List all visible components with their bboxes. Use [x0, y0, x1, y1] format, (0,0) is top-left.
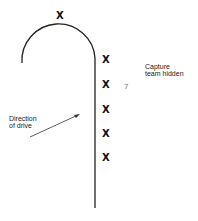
beater-marker-2: X: [102, 80, 110, 90]
capture-team-label: Capture team hidden: [145, 63, 184, 77]
capture-team-position-mark: 7: [124, 83, 128, 91]
beater-marker-3: X: [102, 105, 110, 115]
arrowhead-icon: [74, 114, 80, 118]
beater-marker-top: X: [56, 11, 64, 21]
drive-path-diagram: [0, 0, 198, 221]
direction-of-drive-label: Direction of drive: [9, 115, 37, 129]
beater-marker-5: X: [102, 153, 110, 163]
direction-arrow: [30, 115, 78, 137]
beater-marker-1: X: [102, 55, 110, 65]
beater-marker-4: X: [102, 129, 110, 139]
